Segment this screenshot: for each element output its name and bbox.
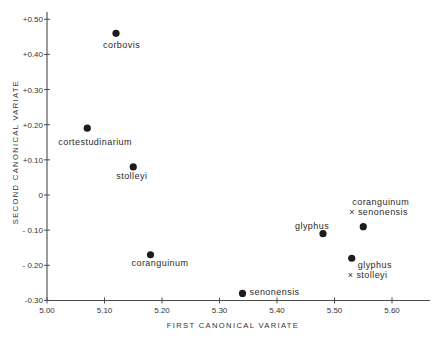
data-points: corboviscortestudinariumstolleyicorangui… (58, 30, 409, 298)
data-point-label: × senonensis (349, 207, 408, 217)
data-point-dot (84, 125, 91, 132)
data-point-group: stolleyi (116, 163, 147, 181)
data-point-label: coranguinum (352, 197, 409, 207)
axes (47, 12, 430, 300)
x-tick-label: 5.00 (39, 306, 55, 315)
data-point-dot (130, 163, 137, 170)
y-tick-label: +0.40 (23, 50, 44, 59)
data-point-dot (348, 255, 355, 262)
y-tick-label: +0.10 (23, 156, 44, 165)
data-point-dot (360, 223, 367, 230)
scatter-chart: 5.005.105.205.305.405.505.60+0.50+0.40+0… (0, 0, 441, 339)
data-point-group: coranguinum× senonensis (349, 197, 409, 231)
ticks: 5.005.105.205.305.405.505.60+0.50+0.40+0… (23, 15, 401, 315)
x-tick-label: 5.30 (212, 306, 228, 315)
data-point-label: × stolleyi (348, 270, 388, 280)
y-tick-label: +0.50 (23, 15, 44, 24)
data-point-group: glyphus× stolleyi (348, 255, 392, 281)
data-point-label: corbovis (103, 40, 140, 50)
data-point-label: stolleyi (116, 171, 147, 181)
y-tick-label: - 0.10 (23, 226, 44, 235)
y-tick-label: +0.30 (23, 86, 44, 95)
data-point-group: corbovis (103, 30, 140, 51)
data-point-group: senonensis (239, 287, 300, 297)
data-point-label: coranguinum (132, 258, 189, 268)
data-point-dot (112, 30, 119, 37)
x-tick-label: 5.60 (384, 306, 400, 315)
data-point-group: coranguinum (132, 251, 189, 268)
x-tick-label: 5.40 (269, 306, 285, 315)
y-tick-label: +0.20 (23, 121, 44, 130)
data-point-label: glyphus (358, 260, 392, 270)
data-point-dot (319, 230, 326, 237)
data-point-label: cortestudinarium (58, 137, 132, 147)
x-axis-title: FIRST CANONICAL VARIATE (167, 321, 299, 330)
data-point-group: cortestudinarium (58, 125, 132, 148)
data-point-dot (239, 290, 246, 297)
data-point-group: glyphus (295, 221, 329, 238)
y-axis-title: SECOND CANONICAL VARIATE (11, 80, 20, 225)
x-tick-label: 5.10 (97, 306, 113, 315)
y-tick-label: - 0.20 (23, 261, 44, 270)
data-point-label: glyphus (295, 221, 329, 231)
x-tick-label: 5.20 (154, 306, 170, 315)
y-tick-label: 0 (39, 191, 44, 200)
y-tick-label: -0.30 (25, 296, 44, 305)
data-point-label: senonensis (250, 287, 300, 297)
chart-canvas: 5.005.105.205.305.405.505.60+0.50+0.40+0… (0, 0, 441, 339)
x-tick-label: 5.50 (327, 306, 343, 315)
